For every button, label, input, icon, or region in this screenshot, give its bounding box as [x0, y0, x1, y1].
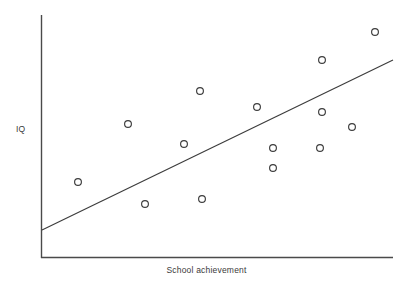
data-point-marker [199, 196, 206, 203]
axes-group [41, 15, 393, 258]
data-point-marker [181, 141, 188, 148]
data-point-marker [372, 29, 379, 36]
data-point-marker [349, 124, 356, 131]
data-point-marker [75, 179, 82, 186]
scatter-plot-figure: IQ School achievement [0, 0, 413, 290]
data-points-group [75, 29, 379, 208]
plot-canvas [0, 0, 413, 290]
data-point-marker [270, 145, 277, 152]
data-point-marker [319, 57, 326, 64]
data-point-marker [270, 165, 277, 172]
data-point-marker [197, 88, 204, 95]
data-point-marker [142, 201, 149, 208]
y-axis-label: IQ [16, 124, 25, 134]
data-point-marker [254, 104, 261, 111]
data-point-marker [319, 109, 326, 116]
x-axis-label: School achievement [0, 265, 413, 275]
trendline-segment [42, 60, 393, 230]
regression-line [42, 60, 393, 230]
data-point-marker [125, 121, 132, 128]
data-point-marker [317, 145, 324, 152]
